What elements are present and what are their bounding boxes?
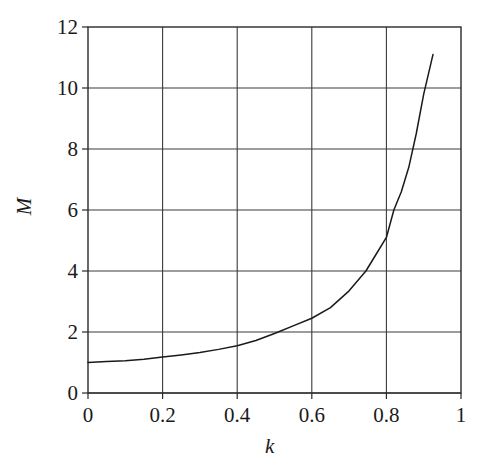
x-tick-label: 1 bbox=[456, 405, 467, 426]
y-tick-label: 6 bbox=[68, 200, 79, 221]
gridlines bbox=[88, 27, 461, 393]
x-axis-label: k bbox=[265, 436, 274, 457]
y-tick-label: 8 bbox=[68, 139, 79, 160]
x-tick-label: 0.8 bbox=[373, 405, 399, 426]
chart-figure: M k 024681012 00.20.40.60.81 bbox=[0, 0, 498, 474]
x-tick-label: 0.2 bbox=[149, 405, 175, 426]
y-tick-label: 10 bbox=[57, 78, 78, 99]
axis-ticks bbox=[82, 27, 461, 399]
y-axis-label: M bbox=[14, 198, 35, 216]
data-series bbox=[88, 54, 433, 362]
x-tick-label: 0.6 bbox=[299, 405, 325, 426]
x-tick-label: 0.4 bbox=[224, 405, 250, 426]
x-tick-label: 0 bbox=[83, 405, 94, 426]
y-tick-label: 2 bbox=[68, 322, 79, 343]
y-tick-label: 0 bbox=[68, 383, 79, 404]
y-tick-label: 12 bbox=[57, 17, 78, 38]
y-tick-label: 4 bbox=[68, 261, 79, 282]
